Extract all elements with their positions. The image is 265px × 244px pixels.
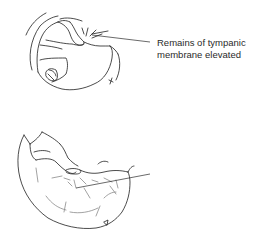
figure-tympanic-membrane-elevated: Remains of tympanic membrane elevated	[0, 0, 265, 122]
callout-label-top: Remains of tympanic membrane elevated	[157, 37, 246, 60]
graft-strokes	[36, 168, 118, 216]
ear-canal-illustration-top	[0, 0, 265, 122]
callout-line: Remains of tympanic	[157, 37, 246, 49]
callout-line: membrane elevated	[157, 49, 246, 61]
leader-line-bottom	[76, 174, 150, 188]
leader-line-top	[92, 35, 150, 42]
figure-graft-placement: Graft placed deep to tympanic membrane a…	[0, 122, 265, 244]
ear-canal-illustration-bottom	[0, 122, 265, 244]
